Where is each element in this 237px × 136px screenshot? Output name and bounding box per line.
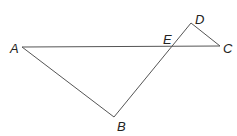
label-d: D	[195, 12, 204, 27]
label-c: C	[223, 41, 233, 56]
label-b: B	[117, 119, 126, 134]
label-a: A	[9, 41, 19, 56]
segment-bd	[114, 23, 191, 117]
segment-ac	[22, 46, 220, 47]
label-e: E	[163, 32, 172, 47]
geometry-diagram: A B C D E	[0, 0, 237, 136]
segment-ab	[22, 47, 114, 117]
